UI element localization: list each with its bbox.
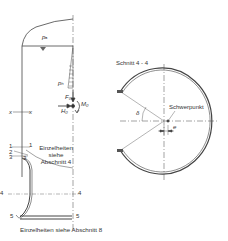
level-marker-icon bbox=[40, 47, 46, 51]
angle-label: δ bbox=[136, 110, 139, 117]
marker-5-right: 5 bbox=[76, 213, 79, 220]
force-f-label: F₀ bbox=[65, 94, 71, 101]
details-note-line1: Einzelheiten bbox=[36, 144, 76, 151]
marker-4-left: 4 bbox=[0, 190, 3, 197]
pressure-distribution bbox=[68, 46, 73, 88]
diagram-canvas bbox=[0, 0, 228, 241]
force-h-label: H₀ bbox=[61, 108, 68, 115]
details-note-line2: siehe bbox=[36, 151, 76, 158]
section-4-4-view bbox=[117, 64, 218, 180]
arrow-head-icon bbox=[168, 130, 172, 132]
centroid-leader bbox=[168, 111, 175, 121]
vessel-elevation bbox=[8, 15, 80, 232]
marker-1-right: 1 bbox=[29, 142, 32, 149]
pressure-top-label: pₐ bbox=[42, 34, 48, 41]
marker-4-right: 4 bbox=[78, 190, 81, 197]
marker-3-left: 3 bbox=[9, 154, 12, 161]
skirt-outer bbox=[20, 158, 30, 217]
section-title: Schnitt 4 - 4 bbox=[116, 60, 148, 67]
section-x-left-label: x bbox=[9, 109, 12, 116]
marker-3-right: 3 bbox=[23, 155, 26, 162]
bottom-note: Einzelheiten siehe Abschnitt 8 bbox=[20, 226, 102, 233]
marker-5-left: 5 bbox=[10, 213, 13, 220]
angle-arc bbox=[142, 107, 146, 121]
pressure-side-label: pₕ bbox=[58, 80, 63, 87]
details-note-line3: Abschnitt 4 bbox=[36, 158, 76, 165]
arrow-head-icon bbox=[71, 98, 75, 102]
moment-label: M₀ bbox=[81, 101, 89, 108]
arrow-head-icon bbox=[160, 130, 164, 132]
radial-line-top bbox=[121, 92, 164, 121]
dome-head bbox=[22, 19, 73, 46]
dimension-e-ext bbox=[164, 125, 168, 135]
radial-line-bottom bbox=[121, 121, 164, 150]
load-point bbox=[71, 104, 74, 107]
details-note: Einzelheiten siehe Abschnitt 4 bbox=[36, 144, 76, 165]
section-x-right-label: x bbox=[29, 109, 32, 116]
offset-label: e bbox=[173, 124, 176, 131]
centroid-label: Schwerpunkt bbox=[169, 104, 204, 111]
